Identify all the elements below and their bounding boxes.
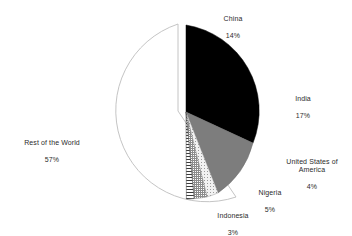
pie-label-india-name: India	[275, 95, 331, 104]
pie-label-nigeria-name: Nigeria	[241, 189, 299, 198]
pie-label-india-value: 17%	[275, 112, 331, 121]
pie-label-china: China 14%	[193, 6, 273, 49]
pie-label-indonesia: Indonesia 3%	[201, 203, 265, 236]
pie-label-united-states-of-america-name: United States of America	[276, 158, 348, 175]
pie-label-china-value: 14%	[193, 32, 273, 41]
pie-chart-figure: China 14% India 17% United States of Ame…	[0, 0, 352, 236]
pie-label-rest-of-the-world-name: Rest of the World	[6, 139, 98, 148]
pie-label-indonesia-name: Indonesia	[201, 212, 265, 221]
pie-label-indonesia-value: 3%	[201, 229, 265, 236]
pie-label-rest-of-the-world-value: 57%	[6, 156, 98, 165]
pie-label-india: India 17%	[275, 86, 331, 129]
pie-label-china-name: China	[193, 15, 273, 24]
pie-label-rest-of-the-world: Rest of the World 57%	[6, 130, 98, 173]
